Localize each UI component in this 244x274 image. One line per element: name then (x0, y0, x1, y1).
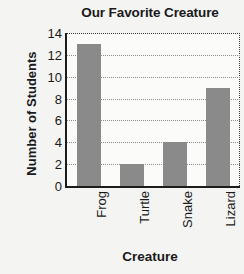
bar-snake[interactable] (163, 142, 187, 186)
y-tick-label: 10 (48, 69, 62, 84)
bar-chart-figure: Our Favorite Creature Number of Students… (0, 0, 244, 274)
x-tick-label-turtle: Turtle (137, 191, 152, 224)
y-tick-label: 0 (55, 179, 62, 194)
bar-frog[interactable] (77, 44, 101, 186)
plot-area: 02468101214 (65, 33, 240, 188)
y-axis-title: Number of Students (24, 34, 39, 194)
x-tick-label-snake: Snake (180, 191, 195, 228)
y-tick-label: 14 (48, 26, 62, 41)
chart-title: Our Favorite Creature (58, 5, 242, 20)
y-tick-label: 8 (55, 91, 62, 106)
x-tick-label-lizard: Lizard (223, 191, 238, 226)
y-tick-label: 12 (48, 47, 62, 62)
bar-lizard[interactable] (206, 88, 230, 186)
y-tick-label: 6 (55, 113, 62, 128)
bars-layer (67, 33, 240, 186)
y-tick-label: 4 (55, 135, 62, 150)
x-axis-title: Creature (58, 249, 242, 264)
y-tick-label: 2 (55, 157, 62, 172)
bar-turtle[interactable] (120, 164, 144, 186)
x-tick-label-frog: Frog (94, 191, 109, 218)
